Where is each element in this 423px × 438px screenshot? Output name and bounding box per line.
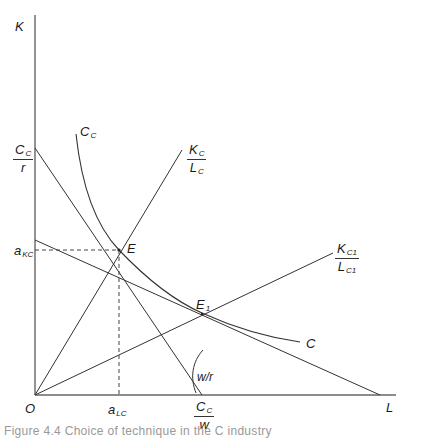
isoquant-end-label: C (306, 337, 315, 350)
point-e1-marker (201, 313, 203, 315)
point-e-label: E (127, 242, 136, 255)
ray-kc1-lc1 (35, 253, 333, 395)
angle-w-r-label: w/r (197, 371, 213, 383)
ray-kc-lc (35, 150, 182, 395)
intercept-k-label: CC r (13, 143, 33, 174)
a-kc-label: aKC (14, 244, 33, 259)
y-axis-label: K (15, 20, 24, 33)
figure-caption: Figure 4.4 Choice of technique in the C … (4, 424, 272, 438)
origin-label: O (25, 402, 35, 415)
ray-kc-lc-label: KC LC (187, 143, 206, 176)
ray-kc1-lc1-label: KC1 LC1 (335, 242, 359, 275)
a-lc-label: aLC (108, 403, 126, 418)
x-axis-label: L (386, 401, 393, 414)
point-e-marker (117, 248, 120, 251)
isoquant-top-label: CC (80, 125, 96, 140)
point-e1-label: E1 (196, 298, 210, 313)
